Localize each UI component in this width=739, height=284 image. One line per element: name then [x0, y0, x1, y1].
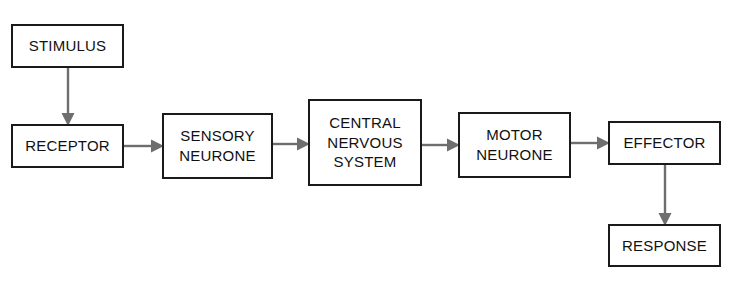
node-label-response: RESPONSE [622, 236, 707, 256]
node-label-stimulus: STIMULUS [29, 36, 106, 56]
node-label-sensory-neurone: SENSORY NEURONE [179, 126, 255, 166]
node-receptor: RECEPTOR [11, 124, 124, 168]
node-label-receptor: RECEPTOR [25, 136, 110, 156]
arrow-motor-neurone-to-effector [569, 135, 610, 151]
node-cns: CENTRAL NERVOUS SYSTEM [308, 99, 422, 186]
node-label-motor-neurone: MOTOR NEURONE [476, 125, 552, 165]
node-stimulus: STIMULUS [11, 24, 124, 68]
arrow-receptor-to-sensory-neurone [122, 138, 164, 154]
node-effector: EFFECTOR [608, 121, 721, 165]
node-label-effector: EFFECTOR [623, 133, 705, 153]
arrow-cns-to-motor-neurone [420, 137, 460, 153]
diagram-canvas: STIMULUSRECEPTORSENSORY NEURONECENTRAL N… [0, 0, 739, 284]
node-motor-neurone: MOTOR NEURONE [458, 112, 571, 178]
arrow-sensory-neurone-to-cns [271, 136, 310, 152]
node-sensory-neurone: SENSORY NEURONE [162, 113, 273, 179]
arrow-effector-to-response [657, 163, 673, 226]
node-response: RESPONSE [608, 224, 721, 267]
node-label-cns: CENTRAL NERVOUS SYSTEM [327, 113, 402, 172]
ghost-caption-text [250, 0, 470, 3]
arrow-stimulus-to-receptor [60, 66, 76, 126]
